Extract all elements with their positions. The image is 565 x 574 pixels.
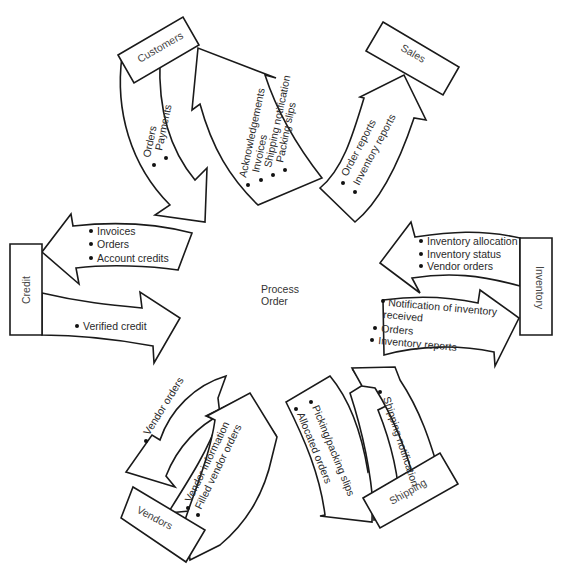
process-order-node[interactable]: Process Order xyxy=(261,283,299,307)
svg-text:Inventory status: Inventory status xyxy=(427,248,501,260)
process-order-line1: Process xyxy=(261,283,299,295)
customers-group: Customers Orders Payments Acknowledgemen… xyxy=(118,17,322,222)
credit-in-labels: Verified credit xyxy=(75,320,147,332)
credit-group: Credit Invoices Orders Account credits V… xyxy=(10,214,192,363)
svg-text:Inventory allocation: Inventory allocation xyxy=(427,235,518,247)
svg-text:Invoices: Invoices xyxy=(97,225,136,237)
svg-text:Verified credit: Verified credit xyxy=(83,320,147,332)
inventory-group: Inventory Inventory allocation Inventory… xyxy=(370,222,552,366)
inventory-label: Inventory xyxy=(534,266,546,310)
vendors-group: Vendors Vendor orders Vendor information… xyxy=(121,375,277,562)
svg-text:Orders: Orders xyxy=(97,238,129,250)
process-order-diagram: Customers Orders Payments Acknowledgemen… xyxy=(0,0,565,574)
sales-group: Sales Order reports Inventory reports xyxy=(320,22,459,222)
credit-label: Credit xyxy=(20,276,32,304)
process-order-line2: Order xyxy=(261,295,288,307)
svg-text:Account credits: Account credits xyxy=(97,252,169,264)
shipping-group: Shipping Picking/packing slips Allocated… xyxy=(286,367,458,528)
svg-text:Vendor orders: Vendor orders xyxy=(427,260,493,272)
